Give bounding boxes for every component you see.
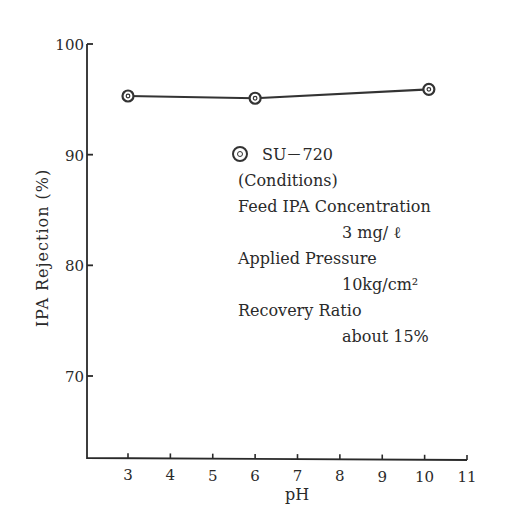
x-tick-label: 4 <box>166 466 176 484</box>
legend-series: SU－720 <box>230 142 431 168</box>
x-tick-label: 7 <box>293 467 303 485</box>
y-tick-label: 80 <box>65 257 84 275</box>
x-tick-label: 9 <box>377 468 387 486</box>
x-tick-label: 6 <box>250 467 260 485</box>
x-axis-title: pH <box>285 485 309 504</box>
conditions-header: (Conditions) <box>230 168 431 194</box>
data-point-marker <box>250 93 261 104</box>
data-point-marker <box>123 91 134 102</box>
feed-value: 3 mg/ ℓ <box>230 220 431 246</box>
series-su-720 <box>123 84 435 104</box>
y-tick-label: 70 <box>65 368 84 386</box>
double-circle-marker-icon <box>232 146 248 162</box>
x-tick-label: 5 <box>208 467 218 485</box>
y-tick-label: 100 <box>55 36 84 54</box>
recovery-label: Recovery Ratio <box>230 298 431 324</box>
pressure-value: 10kg/cm² <box>230 272 431 298</box>
recovery-value: about 15% <box>230 324 431 350</box>
x-tick-label: 11 <box>457 468 476 486</box>
y-tick-label: 90 <box>65 147 84 165</box>
series-line <box>128 89 429 98</box>
x-tick-label: 8 <box>335 467 345 485</box>
x-tick-label: 3 <box>123 466 133 484</box>
y-axis-title: IPA Rejection (%) <box>33 169 52 327</box>
data-point-marker <box>423 84 434 95</box>
legend-series-label: SU－720 <box>262 145 333 164</box>
pressure-label: Applied Pressure <box>230 246 431 272</box>
feed-label: Feed IPA Concentration <box>230 194 431 220</box>
x-tick-label: 10 <box>415 468 434 486</box>
legend: SU－720 (Conditions) Feed IPA Concentrati… <box>230 142 431 350</box>
